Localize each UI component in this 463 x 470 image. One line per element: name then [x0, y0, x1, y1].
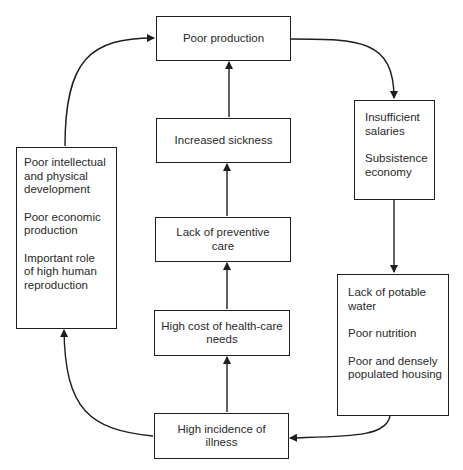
arrow-left-to-production: [65, 38, 154, 146]
node-economic-conditions: Insufficient salaries Subsistence econom…: [354, 100, 435, 200]
list-item: Important role of high human reproductio…: [24, 252, 110, 293]
node-label-line: High incidence of: [177, 423, 265, 437]
node-poor-production: Poor production: [156, 16, 291, 61]
item-line: reproduction: [24, 279, 110, 293]
item-line: Important role: [24, 252, 110, 266]
node-living-conditions: Lack of potable water Poor nutrition Poo…: [337, 274, 449, 416]
node-high-cost-health-care: High cost of health-care needs: [154, 310, 290, 356]
list-item: Lack of potable water: [348, 286, 442, 313]
node-lack-preventive-care: Lack of preventive care: [155, 217, 291, 262]
item-line: Insufficient: [365, 111, 428, 125]
list-item: Subsistence economy: [365, 152, 428, 179]
node-label: Poor production: [183, 32, 264, 46]
item-line: of high human: [24, 265, 110, 279]
item-line: salaries: [365, 125, 428, 139]
node-label-line: High cost of health-care: [161, 320, 282, 334]
list-item: Insufficient salaries: [365, 111, 428, 138]
arrow-housing-to-incidence: [290, 416, 390, 438]
node-label: Increased sickness: [175, 134, 273, 148]
arrow-incidence-to-left: [64, 330, 153, 436]
item-line: Poor and densely: [348, 355, 442, 369]
list-item: Poor economic production: [24, 211, 110, 238]
node-label-line: Lack of preventive: [176, 226, 269, 240]
item-line: development: [24, 183, 110, 197]
node-high-incidence-illness: High incidence of illness: [154, 413, 289, 459]
list-item: Poor and densely populated housing: [348, 355, 442, 382]
list-item: Poor nutrition: [348, 327, 442, 341]
item-line: economy: [365, 166, 428, 180]
node-label-line: needs: [206, 333, 237, 347]
item-line: Lack of potable: [348, 286, 442, 300]
node-label-line: care: [212, 240, 234, 254]
item-line: Subsistence: [365, 152, 428, 166]
node-development-effects: Poor intellectual and physical developme…: [16, 147, 117, 329]
node-increased-sickness: Increased sickness: [156, 118, 291, 163]
item-line: Poor intellectual: [24, 156, 110, 170]
item-line: water: [348, 300, 442, 314]
item-line: and physical: [24, 170, 110, 184]
item-line: Poor economic: [24, 211, 110, 225]
item-line: populated housing: [348, 368, 442, 382]
item-line: Poor nutrition: [348, 327, 442, 341]
diagram-canvas: Poor production Increased sickness Lack …: [0, 0, 463, 470]
list-item: Poor intellectual and physical developme…: [24, 156, 110, 197]
node-label-line: illness: [206, 436, 238, 450]
item-line: production: [24, 224, 110, 238]
arrow-poor-production-to-salaries: [291, 39, 394, 98]
